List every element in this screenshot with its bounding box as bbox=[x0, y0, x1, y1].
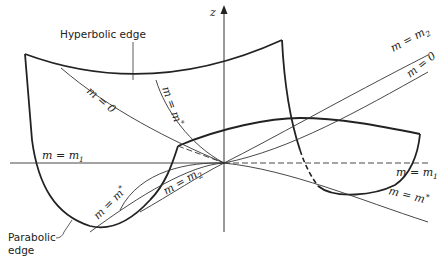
label-m-star-lower-right: m = m bbox=[387, 184, 426, 206]
parabolic-edge-label-line1: Parabolic bbox=[8, 231, 56, 243]
front-edge-curve bbox=[178, 118, 420, 146]
hidden-edge-dashed bbox=[178, 146, 224, 163]
label-m-m1-right-sub: 1 bbox=[433, 172, 438, 181]
curve-m-star-lower bbox=[90, 163, 428, 232]
saddle-surface-diagram: z Hyperbolic edge Parabolic edge m = 0 m… bbox=[0, 0, 440, 265]
svg-text:m = m2: m = m2 bbox=[388, 23, 432, 56]
svg-text:m = m*: m = m* bbox=[387, 183, 430, 207]
label-m-m1-left-sub: 1 bbox=[79, 155, 84, 164]
svg-text:m = m*: m = m* bbox=[159, 84, 186, 127]
label-m-m2-right: m = m bbox=[388, 26, 427, 55]
hyperbolic-edge-label: Hyperbolic edge bbox=[60, 28, 146, 40]
svg-text:m = m1: m = m1 bbox=[396, 166, 438, 181]
curve-m-zero-right bbox=[224, 72, 428, 163]
z-axis-label: z bbox=[209, 6, 216, 19]
right-edge-curve bbox=[282, 40, 300, 150]
label-m-star-lower-right-sup: * bbox=[424, 192, 430, 202]
label-m-m2-lower: m = m bbox=[161, 168, 200, 198]
hyperbolic-edge-curve bbox=[25, 40, 282, 74]
label-m-star-upper: m = m bbox=[159, 85, 184, 124]
parabolic-edge-leader bbox=[56, 220, 72, 238]
curve-m-m2-right bbox=[224, 55, 428, 163]
z-axis bbox=[221, 5, 228, 232]
label-m-m1-left: m = m bbox=[42, 149, 79, 162]
z-axis-arrow-icon bbox=[221, 5, 228, 14]
label-m-m1-right: m = m bbox=[396, 166, 433, 179]
svg-text:m = m*: m = m* bbox=[90, 183, 129, 222]
curve-m-zero-left bbox=[61, 68, 224, 163]
right-edge-hidden bbox=[300, 150, 318, 186]
label-m-star-lower-left: m = m bbox=[91, 187, 126, 222]
left-edge-curve bbox=[25, 54, 150, 227]
parabolic-edge-label-line2: edge bbox=[8, 244, 34, 256]
label-m-zero-left: m = 0 bbox=[84, 84, 118, 116]
right-parabolic-curve bbox=[318, 134, 420, 195]
svg-text:m = m1: m = m1 bbox=[42, 149, 84, 164]
